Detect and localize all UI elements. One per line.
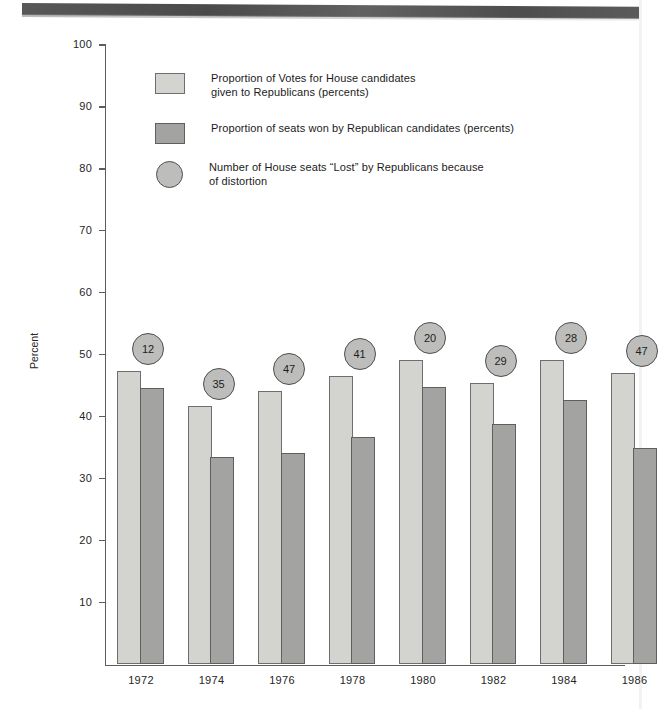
- bar-seats-1980: [422, 387, 446, 665]
- lost-seats-circle-1982: 29: [485, 345, 517, 377]
- bar-votes-1984: [540, 360, 564, 665]
- legend-swatch-circle-icon: [156, 161, 183, 188]
- y-axis-tick-label: 20: [52, 534, 92, 546]
- y-axis-tick-label: 60: [52, 286, 92, 298]
- x-axis-label-1984: 1984: [534, 674, 594, 686]
- legend-swatch-light-bar-icon: [155, 73, 185, 94]
- bar-seats-1984: [563, 400, 587, 665]
- y-axis-tick: [99, 602, 106, 603]
- bar-votes-1986: [611, 373, 635, 664]
- y-axis-tick-label: 90: [52, 100, 92, 112]
- bar-votes-1976: [258, 391, 282, 665]
- x-axis-label-1978: 1978: [323, 674, 383, 686]
- x-axis-label-1980: 1980: [393, 674, 453, 686]
- bar-seats-1982: [492, 424, 516, 665]
- bar-votes-1974: [188, 406, 212, 665]
- y-axis-tick: [99, 44, 106, 45]
- lost-seats-circle-1980: 20: [414, 322, 446, 354]
- bar-seats-1986: [633, 448, 657, 665]
- y-axis-tick-label: 100: [52, 38, 92, 50]
- y-axis-tick-label: 80: [52, 162, 92, 174]
- y-axis-tick-label: 10: [52, 596, 92, 608]
- y-axis-tick: [99, 478, 106, 479]
- legend-item-votes: Proportion of Votes for House candidates…: [155, 72, 416, 99]
- x-axis-label-1976: 1976: [252, 674, 312, 686]
- legend-swatch-dark-bar-icon: [155, 123, 185, 144]
- legend-item-lost-seats: Number of House seats “Lost” by Republic…: [156, 161, 484, 188]
- y-axis-tick: [99, 230, 106, 231]
- legend-label-seats: Proportion of seats won by Republican ca…: [211, 122, 514, 136]
- y-axis-tick-label: 30: [52, 472, 92, 484]
- bar-seats-1974: [210, 457, 234, 665]
- y-axis-tick: [99, 292, 106, 293]
- lost-seats-circle-1972: 12: [132, 333, 164, 365]
- x-axis-line: [105, 665, 625, 666]
- y-axis-tick: [99, 540, 106, 541]
- y-axis-tick-label: 40: [52, 410, 92, 422]
- legend-label-votes: Proportion of Votes for House candidates…: [211, 72, 416, 99]
- bar-seats-1972: [140, 388, 164, 665]
- y-axis-tick: [99, 168, 106, 169]
- x-axis-label-1974: 1974: [182, 674, 242, 686]
- y-axis-title: Percent: [28, 311, 40, 391]
- lost-seats-circle-1984: 28: [555, 322, 587, 354]
- x-axis-label-1982: 1982: [464, 674, 524, 686]
- lost-seats-circle-1974: 35: [203, 368, 235, 400]
- bar-seats-1978: [351, 437, 375, 665]
- bar-seats-1976: [281, 453, 305, 665]
- legend-item-seats: Proportion of seats won by Republican ca…: [155, 122, 514, 144]
- legend-label-lost-seats: Number of House seats “Lost” by Republic…: [209, 161, 484, 188]
- bar-votes-1972: [117, 371, 141, 664]
- lost-seats-circle-1986: 47: [626, 335, 658, 367]
- y-axis-tick-label: 70: [52, 224, 92, 236]
- bar-votes-1982: [470, 383, 494, 665]
- lost-seats-circle-1976: 47: [273, 353, 305, 385]
- y-axis-tick: [99, 354, 106, 355]
- bar-votes-1978: [329, 376, 353, 664]
- x-axis-label-1986: 1986: [605, 674, 662, 686]
- x-axis-label-1972: 1972: [111, 674, 171, 686]
- lost-seats-circle-1978: 41: [344, 338, 376, 370]
- y-axis-tick: [99, 106, 106, 107]
- y-axis-tick-label: 50: [52, 348, 92, 360]
- bar-votes-1980: [399, 360, 423, 665]
- y-axis-tick: [99, 416, 106, 417]
